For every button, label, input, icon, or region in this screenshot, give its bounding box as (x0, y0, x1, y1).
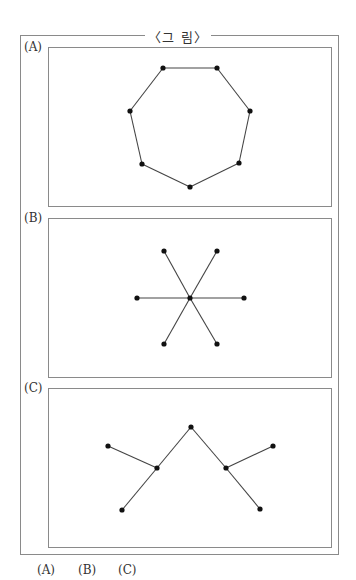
panel-a-label: (A) (24, 40, 42, 54)
panel-a-box (48, 47, 332, 207)
choice-c: (C) (118, 563, 137, 577)
panel-c-box (48, 388, 332, 548)
panel-c-label: (C) (24, 381, 43, 395)
choice-b: (B) (78, 563, 96, 577)
choice-a: (A) (37, 563, 55, 577)
panel-b-box (48, 218, 332, 378)
panel-b-label: (B) (24, 211, 42, 225)
